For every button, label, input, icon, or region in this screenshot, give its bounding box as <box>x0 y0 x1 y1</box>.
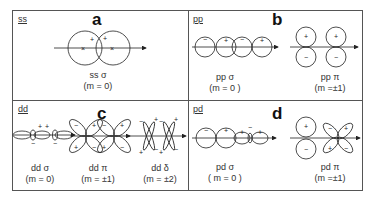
pd-pi-diagram: + − − + + − <box>290 117 360 159</box>
svg-text:+: + <box>240 129 244 136</box>
svg-text:+: + <box>92 122 96 129</box>
svg-text:−: − <box>248 124 252 131</box>
svg-text:−: − <box>139 118 143 125</box>
svg-text:+: + <box>334 33 338 40</box>
svg-text:+: + <box>304 33 308 40</box>
svg-text:+: + <box>224 127 228 134</box>
dd-sigma-diagram: + + − − <box>13 123 75 147</box>
svg-text:+: + <box>38 123 42 130</box>
svg-text:−: − <box>53 140 57 147</box>
svg-text:−: − <box>92 144 96 151</box>
svg-text:−: − <box>74 122 78 129</box>
svg-text:−: − <box>154 146 158 153</box>
svg-text:+: + <box>74 144 78 151</box>
svg-text:+: + <box>103 35 107 42</box>
svg-text:−: − <box>203 36 207 43</box>
svg-text:+: + <box>328 145 332 152</box>
pd-sigma-diagram: − + + − + <box>192 124 276 148</box>
svg-text:+: + <box>154 116 158 123</box>
svg-text:+: + <box>224 37 228 44</box>
orbital-diagrams: × × + + − + − + + − + − <box>0 0 375 202</box>
svg-text:×: × <box>81 45 85 52</box>
svg-text:−: − <box>174 146 178 153</box>
svg-text:+: + <box>90 36 94 43</box>
dd-pi-diagram: − + + − − + + − <box>67 117 134 156</box>
svg-text:+: + <box>120 122 124 129</box>
svg-text:+: + <box>139 149 143 156</box>
svg-text:+: + <box>102 144 106 151</box>
svg-text:−: − <box>334 54 338 61</box>
svg-text:×: × <box>110 45 114 52</box>
svg-text:−: − <box>328 125 332 132</box>
svg-text:−: − <box>204 127 208 134</box>
svg-text:−: − <box>344 145 348 152</box>
svg-text:+: + <box>258 129 262 136</box>
svg-text:+: + <box>260 37 264 44</box>
svg-text:−: − <box>304 146 308 153</box>
svg-text:−: − <box>120 144 124 151</box>
svg-text:−: − <box>31 140 35 147</box>
svg-text:+: + <box>45 123 49 130</box>
svg-text:+: + <box>159 149 163 156</box>
svg-text:−: − <box>159 118 163 125</box>
pp-pi-diagram: + − + − <box>290 27 358 67</box>
svg-text:−: − <box>304 54 308 61</box>
svg-text:+: + <box>304 123 308 130</box>
svg-text:−: − <box>240 36 244 43</box>
svg-text:+: + <box>344 125 348 132</box>
svg-text:−: − <box>102 122 106 129</box>
dd-delta-diagram: − + + − − + + − <box>126 116 186 156</box>
svg-text:+: + <box>174 116 178 123</box>
ss-sigma-diagram: × × + + <box>54 31 146 65</box>
pp-sigma-diagram: − + − + <box>192 36 278 57</box>
